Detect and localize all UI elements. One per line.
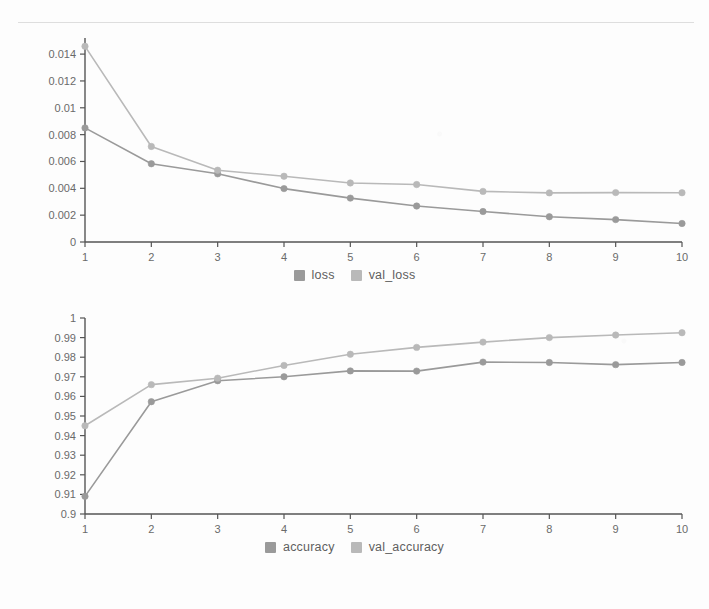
- legend-label-val_loss: val_loss: [369, 268, 416, 282]
- data-point-val_accuracy[interactable]: [148, 381, 154, 387]
- y-axis-tick-label: 0.98: [55, 351, 76, 363]
- data-point-val_accuracy[interactable]: [347, 351, 353, 357]
- x-axis-tick-label: 4: [281, 523, 287, 535]
- data-point-loss[interactable]: [281, 185, 287, 191]
- legend-label-loss: loss: [312, 268, 335, 282]
- accuracy-chart-panel: 0.90.910.920.930.940.950.960.970.980.991…: [0, 306, 709, 602]
- y-axis-tick-label: 0.008: [48, 129, 76, 141]
- y-axis-tick-label: 0.97: [55, 371, 76, 383]
- y-axis-tick-label: 0.002: [48, 209, 76, 221]
- legend-label-accuracy: accuracy: [283, 540, 335, 554]
- legend-label-val_accuracy: val_accuracy: [369, 540, 444, 554]
- y-axis-tick-label: 0.96: [55, 390, 76, 402]
- x-axis-tick-label: 6: [414, 251, 420, 263]
- series-line-val_loss: [85, 46, 682, 193]
- legend-swatch-val_accuracy: [351, 542, 362, 553]
- y-axis-tick-label: 0.94: [55, 430, 76, 442]
- data-point-val_loss[interactable]: [82, 43, 88, 49]
- legend-item-loss[interactable]: loss: [294, 268, 335, 282]
- data-point-accuracy[interactable]: [281, 374, 287, 380]
- legend-item-val_loss[interactable]: val_loss: [351, 268, 416, 282]
- data-point-accuracy[interactable]: [148, 398, 154, 404]
- y-axis-tick-label: 0.014: [48, 48, 76, 60]
- data-point-val_accuracy[interactable]: [480, 339, 486, 345]
- y-axis-tick-label: 0.93: [55, 449, 76, 461]
- x-axis-tick-label: 1: [82, 523, 88, 535]
- y-axis-tick-label: 0.92: [55, 469, 76, 481]
- data-point-accuracy[interactable]: [679, 359, 685, 365]
- x-axis-tick-label: 9: [613, 523, 619, 535]
- data-point-val_accuracy[interactable]: [214, 375, 220, 381]
- data-point-val_loss[interactable]: [347, 180, 353, 186]
- data-point-val_accuracy[interactable]: [281, 362, 287, 368]
- x-axis-tick-label: 2: [148, 523, 154, 535]
- data-point-val_accuracy[interactable]: [679, 330, 685, 336]
- data-point-loss[interactable]: [347, 195, 353, 201]
- data-point-loss[interactable]: [82, 125, 88, 131]
- data-point-val_loss[interactable]: [612, 189, 618, 195]
- data-point-accuracy[interactable]: [82, 493, 88, 499]
- data-point-val_loss[interactable]: [214, 167, 220, 173]
- y-axis-tick-label: 0.006: [48, 155, 76, 167]
- x-axis-tick-label: 7: [480, 523, 486, 535]
- legend-item-accuracy[interactable]: accuracy: [265, 540, 335, 554]
- data-point-val_accuracy[interactable]: [546, 334, 552, 340]
- data-point-loss[interactable]: [546, 214, 552, 220]
- data-point-accuracy[interactable]: [546, 359, 552, 365]
- accuracy-legend: accuracyval_accuracy: [0, 540, 709, 554]
- data-point-loss[interactable]: [413, 203, 419, 209]
- loss-plot-area: 00.0020.0040.0060.0080.010.0120.01412345…: [0, 26, 709, 266]
- loss-legend: lossval_loss: [0, 268, 709, 282]
- data-point-val_loss[interactable]: [480, 188, 486, 194]
- x-axis-tick-label: 10: [676, 523, 688, 535]
- y-axis-tick-label: 0.91: [55, 488, 76, 500]
- y-axis-tick-label: 0.01: [55, 102, 76, 114]
- data-point-val_accuracy[interactable]: [612, 332, 618, 338]
- data-point-accuracy[interactable]: [480, 359, 486, 365]
- x-axis-tick-label: 1: [82, 251, 88, 263]
- y-axis-tick-label: 0.95: [55, 410, 76, 422]
- y-axis-tick-label: 1: [70, 312, 76, 324]
- legend-swatch-loss: [294, 270, 305, 281]
- accuracy-plot-area: 0.90.910.920.930.940.950.960.970.980.991…: [0, 306, 709, 538]
- data-point-val_accuracy[interactable]: [413, 344, 419, 350]
- series-line-val_accuracy: [85, 333, 682, 426]
- x-axis-tick-label: 10: [676, 251, 688, 263]
- data-point-accuracy[interactable]: [413, 368, 419, 374]
- y-axis-tick-label: 0.9: [61, 508, 76, 520]
- loss-chart-svg: 00.0020.0040.0060.0080.010.0120.01412345…: [0, 26, 709, 266]
- y-axis-tick-label: 0.004: [48, 182, 76, 194]
- data-point-val_loss[interactable]: [413, 181, 419, 187]
- data-point-loss[interactable]: [480, 208, 486, 214]
- data-point-loss[interactable]: [148, 161, 154, 167]
- legend-swatch-val_loss: [351, 270, 362, 281]
- data-point-val_loss[interactable]: [148, 143, 154, 149]
- x-axis-tick-label: 9: [613, 251, 619, 263]
- legend-item-val_accuracy[interactable]: val_accuracy: [351, 540, 444, 554]
- loss-chart-panel: 00.0020.0040.0060.0080.010.0120.01412345…: [0, 26, 709, 302]
- x-axis-tick-label: 3: [215, 251, 221, 263]
- data-point-val_loss[interactable]: [281, 173, 287, 179]
- x-axis-tick-label: 8: [546, 251, 552, 263]
- x-axis-tick-label: 6: [414, 523, 420, 535]
- data-point-loss[interactable]: [679, 220, 685, 226]
- data-point-loss[interactable]: [612, 216, 618, 222]
- data-point-val_loss[interactable]: [679, 190, 685, 196]
- series-line-loss: [85, 128, 682, 224]
- x-axis-tick-label: 7: [480, 251, 486, 263]
- x-axis-tick-label: 3: [215, 523, 221, 535]
- x-axis-tick-label: 2: [148, 251, 154, 263]
- data-point-accuracy[interactable]: [612, 361, 618, 367]
- data-point-accuracy[interactable]: [347, 368, 353, 374]
- data-point-val_loss[interactable]: [546, 190, 552, 196]
- x-axis-tick-label: 5: [347, 523, 353, 535]
- data-point-val_accuracy[interactable]: [82, 423, 88, 429]
- y-axis-tick-label: 0.012: [48, 75, 76, 87]
- y-axis-tick-label: 0: [70, 236, 76, 248]
- x-axis-tick-label: 5: [347, 251, 353, 263]
- accuracy-chart-svg: 0.90.910.920.930.940.950.960.970.980.991…: [0, 306, 709, 538]
- y-axis-tick-label: 0.99: [55, 332, 76, 344]
- x-axis-tick-label: 4: [281, 251, 287, 263]
- top-divider-rule: [18, 22, 694, 23]
- x-axis-tick-label: 8: [546, 523, 552, 535]
